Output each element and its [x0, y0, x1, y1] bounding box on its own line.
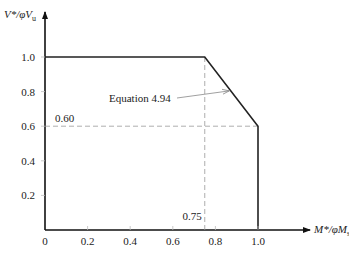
x-tick-label: 0.6 [166, 235, 180, 247]
reference-lines [45, 57, 258, 230]
y-tick-label: 0.8 [21, 86, 35, 98]
annotation-label: Equation 4.94 [109, 92, 171, 104]
x-tick-label: 1.0 [251, 235, 265, 247]
y-axis-title: V*/φVu [4, 8, 36, 23]
x-tick-label: 0.2 [81, 235, 95, 247]
labels: 00.20.40.60.81.00.20.40.60.81.00.750.60V… [4, 8, 349, 247]
x-tick-label: 0.8 [209, 235, 223, 247]
y-tick-label: 0.4 [21, 155, 35, 167]
axes [45, 12, 310, 230]
series [45, 57, 258, 230]
x-axis-title: M*/φMs [313, 223, 349, 238]
x-tick-label: 0 [42, 235, 48, 247]
chart: 00.20.40.60.81.00.20.40.60.81.00.750.60V… [0, 0, 349, 253]
series-line-0 [45, 57, 258, 230]
y-tick-label: 0.2 [21, 189, 35, 201]
y-tick-label: 0.6 [21, 120, 35, 132]
annotation-arrow [177, 91, 229, 98]
y-tick-label: 1.0 [21, 51, 35, 63]
x-tick-label: 0.4 [123, 235, 137, 247]
reference-label-0.75: 0.75 [183, 210, 203, 222]
reference-label-0.60: 0.60 [55, 112, 75, 124]
